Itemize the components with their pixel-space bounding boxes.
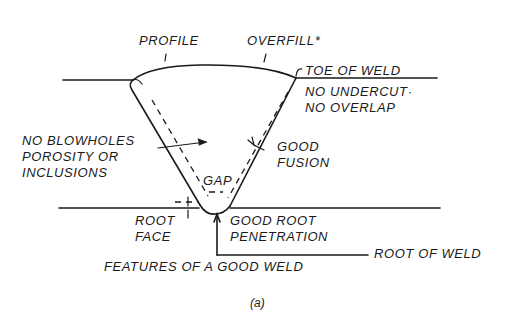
good-fusion-label-line1: GOOD xyxy=(277,139,319,154)
root-bead xyxy=(200,205,230,214)
left-bevel-line xyxy=(130,80,200,205)
no-overlap-label: NO OVERLAP xyxy=(305,100,396,115)
profile-leader xyxy=(165,54,166,61)
subfigure-label: (a) xyxy=(250,296,265,311)
gap-label: GAP xyxy=(203,173,232,188)
root-of-weld-label: ROOT OF WELD xyxy=(374,246,481,261)
no-blowholes-label-line3: INCLUSIONS xyxy=(22,165,107,180)
root-face-label-line2: FACE xyxy=(135,229,171,244)
toe-of-weld-label: TOE OF WELD xyxy=(305,63,401,78)
blowholes-arrowhead xyxy=(198,139,206,145)
good-fusion-label-line2: FUSION xyxy=(277,155,330,170)
weld-profile-cap xyxy=(133,65,296,80)
good-root-penetration-label-line2: PENETRATION xyxy=(230,229,328,244)
toe-hook xyxy=(296,69,302,76)
overfill-label: OVERFILL* xyxy=(247,33,320,48)
fusion-tick xyxy=(248,137,254,145)
diagram-title: FEATURES OF A GOOD WELD xyxy=(104,259,303,274)
good-root-penetration-label-line1: GOOD ROOT xyxy=(230,213,316,228)
no-undercut-label: NO UNDERCUT· xyxy=(305,84,413,99)
profile-label: PROFILE xyxy=(139,33,199,48)
weld-diagram: PROFILE OVERFILL* TOE OF WELD NO UNDERCU… xyxy=(0,0,515,326)
no-blowholes-label-line2: POROSITY OR xyxy=(22,149,119,164)
no-blowholes-label-line1: NO BLOWHOLES xyxy=(22,133,135,148)
root-face-label-line1: ROOT xyxy=(135,213,175,228)
overfill-leader xyxy=(264,54,266,62)
left-toe-hook xyxy=(133,80,142,85)
